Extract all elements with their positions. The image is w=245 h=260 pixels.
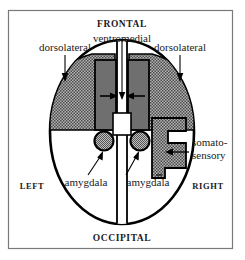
brain-diagram-figure: FRONTAL ventromedial dorsolateral dorsol… (0, 0, 245, 260)
label-dorsolateral-left: dorsolateral (39, 41, 91, 53)
label-somatosensory-line2: sensory (192, 149, 226, 161)
label-somatosensory-line1: somato- (192, 136, 228, 148)
amygdala-right-shape (131, 132, 150, 151)
label-ventromedial: ventromedial (93, 32, 151, 44)
label-amygdala-right: amygdala (127, 176, 170, 188)
midline-gap-block (113, 113, 131, 135)
label-occipital: OCCIPITAL (93, 233, 152, 243)
amygdala-left-shape (95, 132, 114, 151)
label-left: LEFT (20, 181, 45, 191)
label-dorsolateral-right: dorsolateral (154, 41, 206, 53)
label-frontal: FRONTAL (97, 19, 147, 29)
label-right: RIGHT (192, 181, 223, 191)
label-amygdala-left: amygdala (65, 176, 108, 188)
brain-diagram-svg: FRONTAL ventromedial dorsolateral dorsol… (0, 0, 245, 260)
